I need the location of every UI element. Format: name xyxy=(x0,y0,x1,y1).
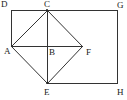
label-C: C xyxy=(44,0,50,9)
geometry-diagram: D C G A B F E H xyxy=(0,0,127,100)
label-G: G xyxy=(117,0,124,10)
diagram-segments xyxy=(12,11,118,84)
segment-EA xyxy=(12,47,48,84)
segment-CF xyxy=(48,11,83,47)
label-B: B xyxy=(49,47,55,57)
label-H: H xyxy=(117,87,124,97)
label-F: F xyxy=(86,47,91,57)
label-D: D xyxy=(1,0,8,9)
segment-AC xyxy=(12,11,48,47)
label-A: A xyxy=(4,46,11,56)
vertex-C-dot xyxy=(46,9,48,11)
diagram-labels: D C G A B F E H xyxy=(1,0,124,97)
vertex-E-dot xyxy=(46,82,48,84)
label-E: E xyxy=(44,87,50,97)
